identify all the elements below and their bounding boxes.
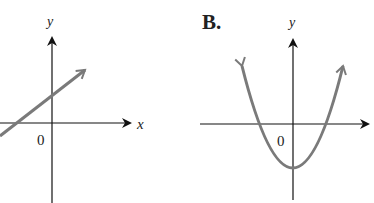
y-axis-label: y xyxy=(45,14,54,29)
y-axis-label: y xyxy=(287,15,296,30)
graph-a: y x 0 xyxy=(0,14,144,203)
origin-label: 0 xyxy=(277,133,285,149)
graphs-figure: y x 0 B. y 0 xyxy=(0,0,374,203)
graph-b: B. y 0 xyxy=(200,10,368,200)
origin-label: 0 xyxy=(37,132,45,148)
graph-label: B. xyxy=(202,10,221,34)
line-curve xyxy=(0,70,85,136)
x-axis-label: x xyxy=(136,116,144,132)
